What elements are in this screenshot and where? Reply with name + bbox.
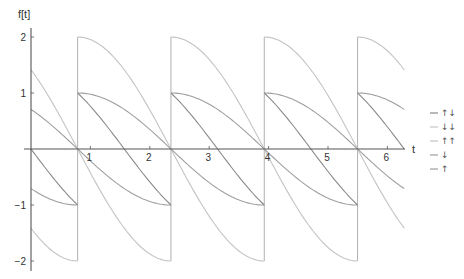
legend-label: ↓↓ bbox=[441, 122, 456, 132]
x-tick-label: 3 bbox=[205, 152, 211, 163]
y-tick-label: −1 bbox=[15, 200, 27, 211]
series-down-down bbox=[31, 149, 404, 261]
y-tick-label: −2 bbox=[15, 256, 27, 267]
legend-label: ↓ bbox=[441, 150, 449, 160]
x-axis-label: t bbox=[412, 143, 415, 155]
legend-label: ↑↑ bbox=[441, 136, 456, 146]
series-up-up bbox=[31, 37, 404, 149]
x-tick-label: 6 bbox=[384, 152, 390, 163]
legend-label: ↑↓ bbox=[441, 108, 456, 118]
x-tick-label: 5 bbox=[324, 152, 330, 163]
x-tick-label: 2 bbox=[146, 152, 152, 163]
y-axis-label: f[t] bbox=[18, 8, 30, 20]
x-tick-label: 1 bbox=[87, 152, 93, 163]
legend-label: ↑ bbox=[441, 164, 449, 174]
chart-plot-area: 123456 −2−112 t f[t] ↑↓↓↓↑↑↓↑ bbox=[0, 0, 464, 279]
y-tick-label: 2 bbox=[20, 32, 26, 43]
x-tick-label: 4 bbox=[265, 152, 271, 163]
y-tick-label: 1 bbox=[20, 88, 26, 99]
legend: ↑↓↓↓↑↑↓↑ bbox=[430, 108, 456, 174]
series-up bbox=[31, 93, 404, 149]
